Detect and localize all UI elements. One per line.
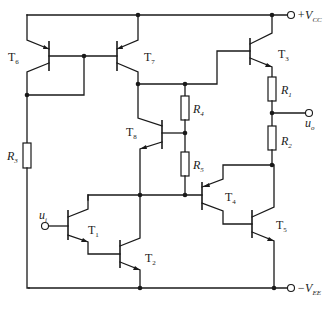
t6-label: T6 <box>8 50 19 66</box>
resistor-r3 <box>23 143 31 168</box>
resistor-r5 <box>181 152 189 176</box>
r1-label: R1 <box>280 83 292 99</box>
t7-label: T7 <box>144 50 155 66</box>
vcc-label: +VCC <box>297 8 322 24</box>
resistor-r4 <box>181 96 189 120</box>
transistor-t3 <box>250 15 272 77</box>
transistor-t2 <box>120 195 140 288</box>
t8-label: T8 <box>126 125 137 141</box>
vee-label: −VEE <box>297 281 322 297</box>
t2-label: T2 <box>145 251 156 267</box>
ui-label: ui <box>39 208 47 224</box>
r4-label: R4 <box>192 102 204 118</box>
t6-diode-connection <box>27 56 84 95</box>
transistor-t8 <box>138 84 185 195</box>
transistor-t1 <box>48 195 120 254</box>
transistor-t6 <box>27 15 49 95</box>
r3-label: R3 <box>6 149 18 165</box>
t1-label: T1 <box>88 223 99 239</box>
uo-label: uo <box>305 116 315 132</box>
t5-label: T5 <box>276 218 287 234</box>
transistor-t5 <box>252 165 274 288</box>
transistor-t4 <box>202 165 272 224</box>
r2-label: R2 <box>280 134 292 150</box>
circuit-schematic: +VCC −VEE T6 T7 T3 R1 uo R2 <box>0 0 329 313</box>
resistor-r2 <box>268 126 276 150</box>
t4-label: T4 <box>225 190 236 206</box>
r5-label: R5 <box>192 158 204 174</box>
vee-terminal <box>288 285 295 292</box>
t3-label: T3 <box>278 47 289 63</box>
resistor-r1 <box>268 77 276 101</box>
vcc-terminal <box>288 12 295 19</box>
t3-base-wire <box>138 51 250 84</box>
transistor-t7 <box>117 15 138 84</box>
